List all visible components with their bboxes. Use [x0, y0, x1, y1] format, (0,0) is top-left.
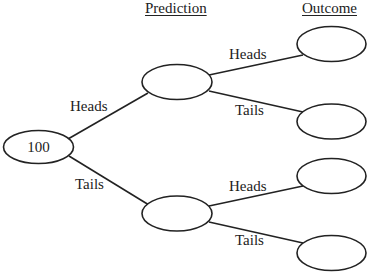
edge-label-top-heads: Heads	[229, 47, 267, 62]
tree-graphics	[0, 0, 372, 275]
outcome-node-2	[297, 104, 366, 139]
outcome-node-4	[297, 236, 366, 271]
prediction-node-tails	[142, 196, 212, 231]
prediction-node-heads	[142, 65, 212, 100]
probability-tree-diagram: Prediction Outcome 100 Heads Tails Heads…	[0, 0, 372, 275]
edge-label-root-tails: Tails	[75, 177, 104, 192]
edge-label-bottom-heads: Heads	[229, 179, 267, 194]
outcome-node-3	[297, 159, 366, 194]
edge-label-top-tails: Tails	[235, 103, 264, 118]
prediction-column-header: Prediction	[145, 1, 207, 16]
outcome-node-1	[297, 27, 366, 62]
edge-label-root-heads: Heads	[70, 99, 108, 114]
root-node-label: 100	[3, 140, 74, 155]
outcome-column-header: Outcome	[302, 1, 357, 16]
edge-label-bottom-tails: Tails	[235, 233, 264, 248]
